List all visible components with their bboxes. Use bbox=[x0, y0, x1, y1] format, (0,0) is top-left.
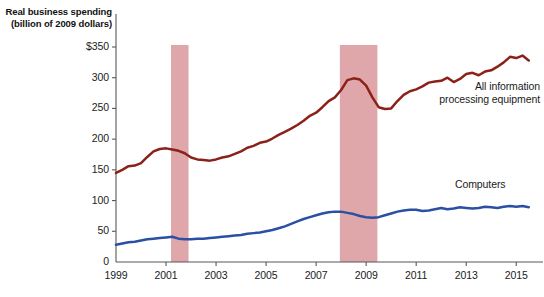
all-information-processing-equipment-label: All information processing equipment bbox=[430, 80, 540, 106]
recession-2008-2009 bbox=[340, 45, 378, 262]
x-axis-tick-label-2015: 2015 bbox=[492, 269, 540, 281]
all-info-label-line2: processing equipment bbox=[430, 93, 540, 106]
x-axis-tick-label-2013: 2013 bbox=[442, 269, 490, 281]
x-axis-tick-label-2001: 2001 bbox=[142, 269, 190, 281]
x-axis-tick-label-2011: 2011 bbox=[392, 269, 440, 281]
computers-label-text: Computers bbox=[455, 178, 535, 191]
x-axis-tick-label-2007: 2007 bbox=[292, 269, 340, 281]
x-axis-tick-label-2005: 2005 bbox=[242, 269, 290, 281]
y-axis-tick-label-150: 150 bbox=[40, 163, 109, 175]
y-axis-tick-label-100: 100 bbox=[40, 194, 109, 206]
y-axis-tick-label-200: 200 bbox=[40, 132, 109, 144]
y-axis-tick-label-250: 250 bbox=[40, 101, 109, 113]
chart-container: Real business spending (billion of 2009 … bbox=[0, 0, 544, 297]
x-axis-tick-label-1999: 1999 bbox=[92, 269, 140, 281]
y-axis-tick-label-0: 0 bbox=[40, 255, 109, 267]
computers-label: Computers bbox=[455, 178, 535, 191]
y-axis-tick-label-300: 300 bbox=[40, 71, 109, 83]
x-axis-tick-label-2003: 2003 bbox=[192, 269, 240, 281]
x-axis-tick-label-2009: 2009 bbox=[342, 269, 390, 281]
all-info-label-line1: All information bbox=[430, 80, 540, 93]
y-axis-tick-label-350: $350 bbox=[40, 40, 109, 52]
y-axis-tick-label-50: 50 bbox=[40, 224, 109, 236]
